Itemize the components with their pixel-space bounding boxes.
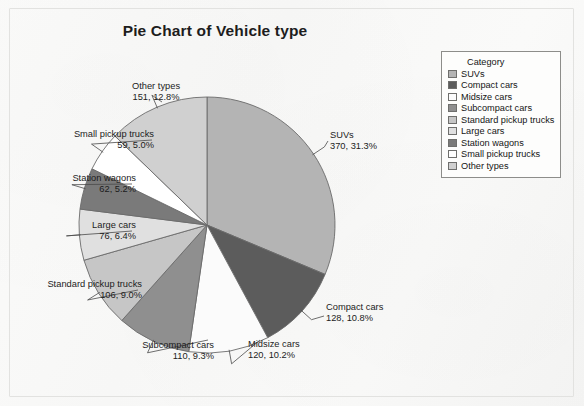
legend-item[interactable]: Large cars: [446, 126, 556, 138]
legend-item-label: Subcompact cars: [461, 103, 532, 113]
legend-item-label: SUVs: [461, 69, 485, 79]
legend-item-label: Midsize cars: [461, 92, 512, 102]
leader-line: [313, 141, 329, 155]
legend-swatch-icon: [448, 162, 457, 170]
legend-item[interactable]: Station wagons: [446, 137, 556, 149]
legend-item-label: Station wagons: [461, 138, 524, 148]
legend-swatch-icon: [448, 81, 457, 89]
pie-chart-svg: [12, 40, 430, 390]
legend-item[interactable]: Other types: [446, 160, 556, 172]
legend-item-label: Small pickup trucks: [461, 149, 540, 159]
leader-line: [301, 310, 324, 320]
pie-chart: SUVs 370, 31.3% Compact cars 128, 10.8% …: [12, 40, 430, 390]
slice-label-subcompact-cars: Subcompact cars 110, 9.3%: [96, 340, 214, 363]
legend-item-label: Other types: [461, 161, 509, 171]
legend-title: Category: [467, 57, 556, 67]
slice-label-standard-pickup-trucks: Standard pickup trucks 106, 9.0%: [6, 279, 142, 302]
legend-item[interactable]: Small pickup trucks: [446, 149, 556, 161]
slice-label-other-types: Other types 151, 12.8%: [106, 81, 206, 104]
page-title: Pie Chart of Vehicle type: [0, 22, 430, 40]
legend-item[interactable]: Midsize cars: [446, 91, 556, 103]
legend-item[interactable]: SUVs: [446, 68, 556, 80]
legend-swatch-icon: [448, 70, 457, 78]
legend-item[interactable]: Compact cars: [446, 80, 556, 92]
legend-item[interactable]: Standard pickup trucks: [446, 114, 556, 126]
legend-item-label: Large cars: [461, 126, 504, 136]
legend-swatch-icon: [448, 93, 457, 101]
legend: Category SUVsCompact carsMidsize carsSub…: [441, 51, 561, 178]
legend-item-label: Standard pickup trucks: [461, 115, 554, 125]
slice-label-compact-cars: Compact cars 128, 10.8%: [326, 302, 383, 325]
legend-item-list: SUVsCompact carsMidsize carsSubcompact c…: [446, 68, 556, 172]
legend-item[interactable]: Subcompact cars: [446, 103, 556, 115]
slice-label-midsize-cars: Midsize cars 120, 10.2%: [248, 339, 300, 362]
legend-swatch-icon: [448, 127, 457, 135]
slice-label-station-wagons: Station wagons 62, 5.2%: [30, 173, 136, 196]
slice-label-small-pickup-trucks: Small pickup trucks 59, 5.0%: [22, 129, 154, 152]
legend-swatch-icon: [448, 150, 457, 158]
slice-label-suvs: SUVs 370, 31.3%: [330, 130, 377, 153]
legend-swatch-icon: [448, 104, 457, 112]
legend-swatch-icon: [448, 116, 457, 124]
legend-item-label: Compact cars: [461, 80, 518, 90]
slice-label-large-cars: Large cars 76, 6.4%: [30, 220, 136, 243]
legend-swatch-icon: [448, 139, 457, 147]
